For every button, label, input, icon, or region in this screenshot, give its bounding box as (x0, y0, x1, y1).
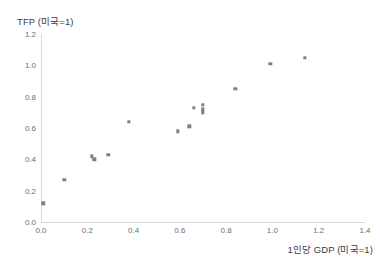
data-point (62, 178, 65, 181)
y-tick-label: 0.2 (25, 186, 36, 195)
data-point (93, 158, 96, 161)
data-point (176, 129, 179, 132)
y-tick-label: 0.0 (25, 218, 36, 227)
y-tick-label: 0.6 (25, 124, 36, 133)
data-point (127, 120, 130, 123)
y-axis-line (41, 34, 42, 222)
x-tick-label: 1.4 (359, 226, 370, 235)
x-tick-label: 1.0 (267, 226, 278, 235)
data-point (234, 87, 237, 90)
data-point (201, 111, 204, 114)
data-point (42, 201, 45, 204)
y-axis-title: TFP (미국=1) (17, 14, 74, 28)
x-tick-label: 0.4 (128, 226, 139, 235)
data-point (201, 103, 204, 106)
y-tick-label: 0.8 (25, 92, 36, 101)
y-tick-label: 0.4 (25, 155, 36, 164)
data-point (106, 153, 109, 156)
x-tick-label: 1.2 (313, 226, 324, 235)
plot-area: 0.00.20.40.60.81.01.2 0.00.20.40.60.81.0… (41, 34, 365, 222)
x-tick-label: 0.6 (174, 226, 185, 235)
y-tick-label: 1.0 (25, 61, 36, 70)
scatter-chart: TFP (미국=1) 1인당 GDP (미국=1) 0.00.20.40.60.… (0, 0, 380, 261)
data-point (187, 125, 190, 128)
y-tick-label: 1.2 (25, 30, 36, 39)
x-tick-label: 0.0 (35, 226, 46, 235)
data-point (303, 56, 306, 59)
data-point (268, 62, 271, 65)
x-tick-label: 0.2 (82, 226, 93, 235)
x-axis-title: 1인당 GDP (미국=1) (287, 242, 373, 256)
x-axis-line (41, 222, 365, 223)
x-tick-label: 0.8 (221, 226, 232, 235)
data-point (192, 106, 195, 109)
